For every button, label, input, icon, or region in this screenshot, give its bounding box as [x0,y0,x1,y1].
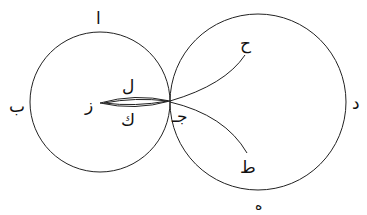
label-ta: ط [240,157,256,177]
label-dal: د [352,93,360,113]
left-circle [30,32,170,172]
label-ba: ب [9,96,25,116]
label-ha-hutti: ح [240,33,251,54]
label-zay: ز [84,95,93,115]
tangent-circles-diagram: ا ب ز ل ك جـ ح ط د ه [0,0,367,215]
label-ha: ه [255,197,262,213]
curve-to-ha [170,55,245,101]
label-alif: ا [96,8,101,28]
label-jim: جـ [171,106,188,126]
right-circle [170,14,346,190]
label-kaf: ك [121,110,135,130]
label-lam: ل [122,76,134,96]
